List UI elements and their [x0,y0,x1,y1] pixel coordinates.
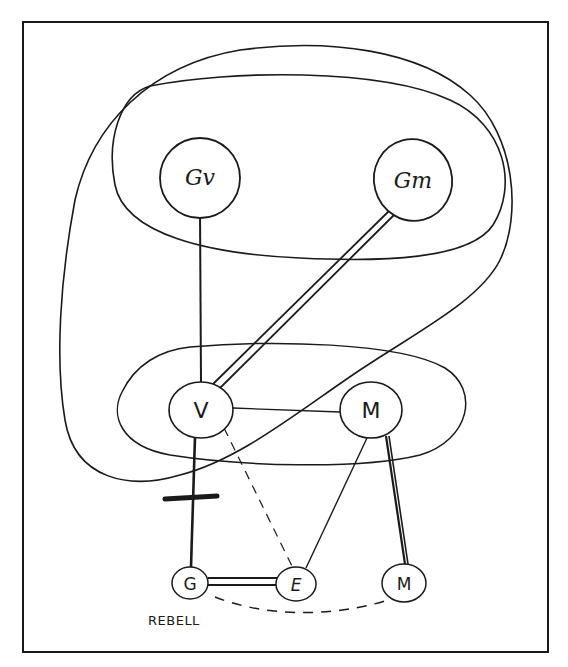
crossbar-marker [165,496,217,499]
edge-v-e-dashed [224,428,292,566]
diagram-svg: Gv Gm V M G E M REBELL [0,0,568,667]
node-gm-label: Gm [394,168,432,193]
node-g-label: G [183,574,196,594]
node-e-label: E [291,575,302,595]
edge-m1-m2-double [386,436,408,564]
node-g[interactable]: G [172,567,208,599]
edge-gv-v [200,210,201,382]
edge-m1-e [306,438,367,568]
node-v[interactable]: V [169,382,233,438]
node-v-label: V [193,398,208,423]
diagram-frame [23,22,548,652]
node-m2-label: M [397,574,412,594]
diagram-canvas: Gv Gm V M G E M REBELL [0,0,568,667]
edge-v-m1 [233,408,340,412]
node-gv-label: Gv [185,165,216,190]
node-gm[interactable]: Gm [365,130,462,229]
node-m1-label: M [362,398,381,423]
group-outer-loop [60,46,512,482]
node-m1[interactable]: M [340,382,402,438]
node-gv[interactable]: Gv [160,138,240,218]
edge-v-g-blocked [165,437,217,567]
edge-gm-v-double [211,210,395,391]
caption-rebel: REBELL [148,613,200,628]
edge-g-e-double [208,578,277,585]
node-m2[interactable]: M [382,564,426,602]
node-e[interactable]: E [276,567,316,601]
